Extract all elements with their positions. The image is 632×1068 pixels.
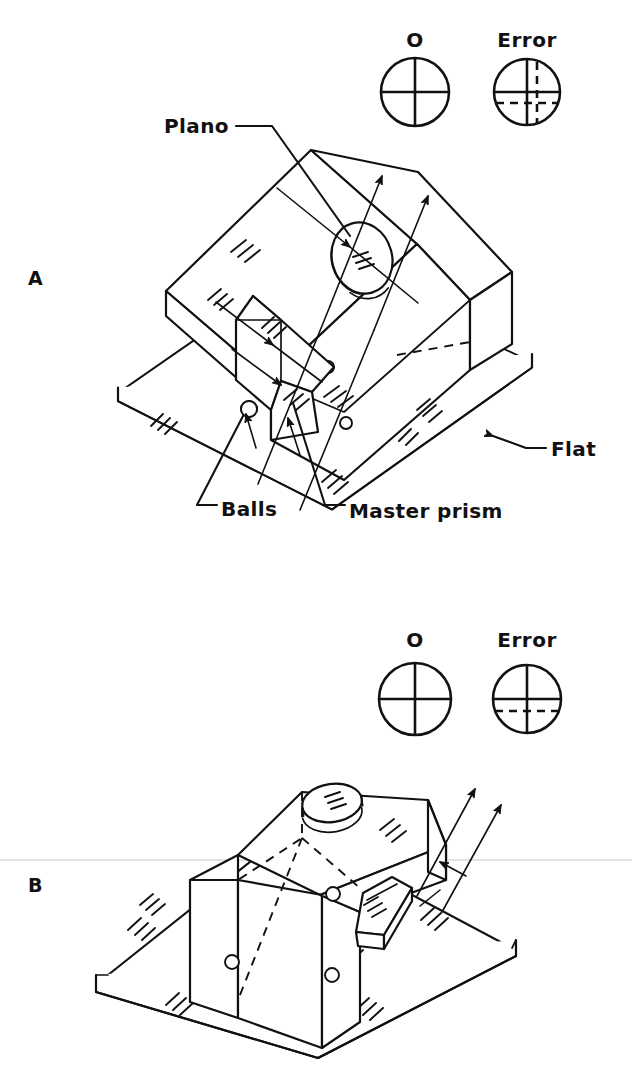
panel-a-label: A — [28, 267, 43, 289]
plano-label: Plano — [164, 114, 229, 138]
panel-a-reticle-error: Error — [494, 28, 560, 125]
prism-front-facet — [238, 880, 322, 1048]
prism-pin-hole — [326, 887, 340, 901]
panel-b-label: B — [28, 874, 42, 896]
reticle-label-error: Error — [497, 28, 557, 52]
figure-canvas: A O Error — [0, 0, 632, 1068]
reticle-label-error: Error — [497, 628, 557, 652]
balls-label: Balls — [221, 497, 277, 521]
master-prism-label: Master prism — [349, 499, 503, 523]
panel-b-reticle-error: Error — [493, 628, 561, 733]
prism-left-facet — [190, 880, 238, 1018]
prism-pin-hole — [225, 955, 239, 969]
support-ball-highlight — [241, 401, 257, 417]
prism-pin-hole — [325, 968, 339, 982]
technical-figure: A O Error — [0, 0, 632, 1068]
flat-label: Flat — [551, 437, 596, 461]
reticle-label-o: O — [406, 28, 424, 52]
prism-pin-hole — [340, 417, 352, 429]
reticle-label-o: O — [406, 628, 424, 652]
master-prism-front — [356, 932, 384, 949]
